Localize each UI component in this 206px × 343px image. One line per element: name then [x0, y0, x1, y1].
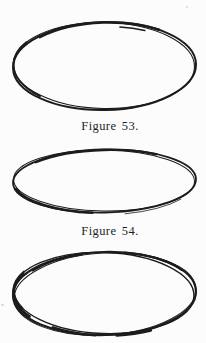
- figure-53-ellipse-sketch: [0, 0, 206, 122]
- scan-speck: [186, 6, 188, 8]
- hand-drawn-ellipse: [11, 148, 196, 217]
- figure-55-ellipse-sketch: [0, 246, 206, 343]
- hand-drawn-ellipse: [12, 248, 199, 341]
- hand-drawn-ellipse: [12, 19, 197, 113]
- scan-speck: [1, 304, 4, 306]
- figure-54-ellipse-sketch: [0, 142, 206, 222]
- figure-53-caption: Figure 53.: [7, 119, 206, 133]
- figure-54-caption: Figure 54.: [7, 224, 206, 238]
- scanned-page: Figure 53. Figure 54.: [0, 0, 206, 343]
